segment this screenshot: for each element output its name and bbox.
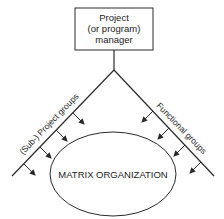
left-arrow-3 bbox=[40, 147, 51, 158]
left-arrow-1 bbox=[73, 113, 84, 124]
right-arrow-1 bbox=[142, 111, 153, 122]
right-arrow-4 bbox=[190, 162, 201, 173]
project-manager-box: Project (or program) manager bbox=[75, 8, 153, 50]
box-line-3: manager bbox=[95, 34, 133, 45]
box-line-1: Project bbox=[99, 12, 129, 23]
matrix-organization-ellipse: MATRIX ORGANIZATION bbox=[50, 132, 176, 216]
box-line-2: (or program) bbox=[88, 23, 141, 34]
right-arrow-3 bbox=[174, 145, 185, 156]
left-arrow-4 bbox=[24, 164, 35, 175]
right-arrow-2 bbox=[158, 128, 169, 139]
center-label: MATRIX ORGANIZATION bbox=[58, 169, 168, 180]
matrix-organization-diagram: Project (or program) manager (Sub-) Proj… bbox=[0, 0, 224, 219]
left-arrow-2 bbox=[56, 130, 67, 141]
